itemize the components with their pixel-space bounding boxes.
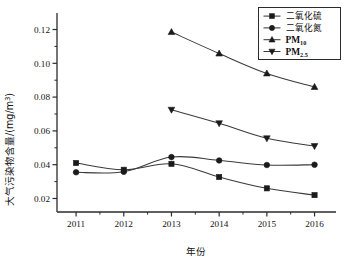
x-tick-label: 2014 bbox=[210, 219, 229, 229]
data-point-marker bbox=[216, 158, 222, 164]
x-tick-label: 2011 bbox=[67, 219, 85, 229]
x-tick-label: 2016 bbox=[305, 219, 324, 229]
chart-canvas: 0.020.040.060.080.100.12 201120122013201… bbox=[0, 0, 344, 261]
y-axis-title-main: 大气污染物含量/(mg/m bbox=[4, 101, 15, 206]
legend-label: 二氧化氮 bbox=[286, 22, 322, 33]
y-tick-label: 0.12 bbox=[34, 25, 50, 35]
legend-label: 二氧化硫 bbox=[286, 10, 322, 21]
data-point-marker bbox=[270, 14, 275, 19]
y-tick-label: 0.06 bbox=[34, 126, 50, 136]
x-tick-label: 2015 bbox=[258, 219, 277, 229]
chart-legend[interactable]: 二氧化硫二氧化氮PM10PM2.5 bbox=[259, 8, 341, 60]
x-tick-label: 2013 bbox=[162, 219, 181, 229]
data-point-marker bbox=[269, 25, 274, 30]
x-axis-title: 年份 bbox=[186, 246, 206, 257]
data-point-marker bbox=[217, 174, 222, 179]
data-point-marker bbox=[73, 160, 78, 165]
data-point-marker bbox=[312, 193, 317, 198]
data-point-marker bbox=[264, 162, 270, 168]
data-point-marker bbox=[169, 154, 175, 160]
x-tick-label: 2012 bbox=[115, 219, 134, 229]
y-tick-label: 0.02 bbox=[34, 194, 50, 204]
data-point-marker bbox=[121, 169, 127, 175]
y-tick-label: 0.10 bbox=[34, 59, 50, 69]
y-axis-title: 大气污染物含量/(mg/m3) bbox=[4, 93, 15, 206]
data-point-marker bbox=[312, 162, 318, 168]
air-pollutant-line-chart: 0.020.040.060.080.100.12 201120122013201… bbox=[0, 0, 344, 261]
y-tick-label: 0.08 bbox=[34, 92, 50, 102]
y-tick-label: 0.04 bbox=[34, 160, 50, 170]
svg-text:大气污染物含量/(mg/m3): 大气污染物含量/(mg/m3) bbox=[4, 93, 15, 206]
y-axis-title-tail: ) bbox=[4, 93, 15, 97]
data-point-marker bbox=[264, 186, 269, 191]
data-point-marker bbox=[73, 169, 79, 175]
data-point-marker bbox=[169, 161, 174, 166]
